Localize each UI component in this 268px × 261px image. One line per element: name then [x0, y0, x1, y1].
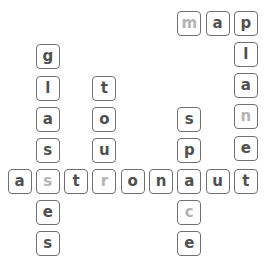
letter-tile[interactable]: r [92, 169, 116, 194]
letter-tile[interactable]: n [149, 169, 173, 194]
letter-tile[interactable]: t [64, 169, 88, 194]
letter-tile[interactable]: t [92, 76, 116, 101]
letter-tile[interactable]: n [234, 104, 258, 129]
letter-tile[interactable]: l [36, 76, 60, 101]
letter-tile[interactable]: t [234, 169, 258, 194]
letter-tile[interactable]: m [177, 11, 201, 36]
letter-tile[interactable]: a [206, 11, 230, 36]
letter-tile[interactable]: u [92, 138, 116, 163]
letter-tile[interactable]: s [36, 231, 60, 256]
letter-tile[interactable]: s [177, 107, 201, 132]
letter-tile[interactable]: a [177, 169, 201, 194]
letter-tile[interactable]: s [36, 138, 60, 163]
letter-tile[interactable]: u [206, 169, 230, 194]
letter-tile[interactable]: p [177, 138, 201, 163]
letter-tile[interactable]: e [36, 200, 60, 225]
letter-tile[interactable]: p [234, 11, 258, 36]
letter-tile[interactable]: a [8, 169, 32, 194]
letter-tile[interactable]: o [92, 107, 116, 132]
letter-tile[interactable]: l [234, 42, 258, 67]
letter-tile[interactable]: s [36, 169, 60, 194]
letter-tile[interactable]: a [234, 73, 258, 98]
letter-tile[interactable]: e [177, 231, 201, 256]
letter-tile[interactable]: g [36, 44, 60, 69]
letter-tile[interactable]: e [234, 136, 258, 161]
letter-tile[interactable]: c [177, 200, 201, 225]
letter-tile[interactable]: o [121, 169, 145, 194]
letter-tile[interactable]: a [36, 107, 60, 132]
crossword-board: maplaneglasestouspceastronaut [0, 0, 268, 261]
